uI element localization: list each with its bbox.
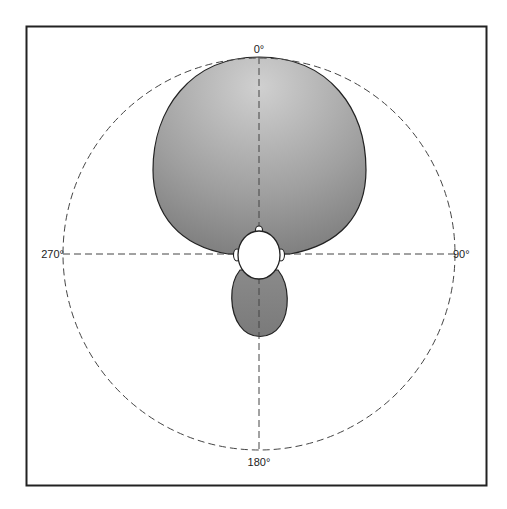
label-270-degrees: 270° [41, 248, 64, 260]
label-180-degrees: 180° [248, 456, 271, 468]
rear-lobe [232, 270, 288, 337]
label-0-degrees: 0° [254, 43, 265, 55]
label-90-degrees: 90° [453, 248, 470, 260]
head-outline [238, 231, 280, 279]
polar-pattern-diagram: 0° 90° 180° 270° [0, 0, 507, 509]
